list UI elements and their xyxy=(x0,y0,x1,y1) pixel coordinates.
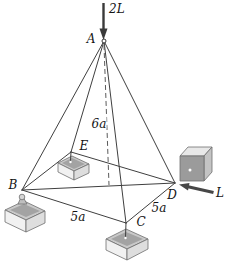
joint-a-label: A xyxy=(86,32,96,46)
anchor-block-d xyxy=(180,147,212,181)
member-bd-line xyxy=(22,183,175,190)
member-ad-line xyxy=(104,41,175,183)
truss-members xyxy=(22,41,175,223)
force-2l-arrow xyxy=(100,3,108,40)
anchor-block-d-front-face xyxy=(180,156,204,181)
truss-diagram-svg: A B C D E 2L L 6a 5a 5a xyxy=(0,0,226,265)
joint-c-label: C xyxy=(136,215,145,229)
anchor-block-d-dot xyxy=(189,169,192,172)
joint-e-label: E xyxy=(79,139,89,153)
footing-b-ball xyxy=(19,194,25,200)
force-l-arrow xyxy=(179,183,214,193)
force-2l-arrowhead xyxy=(100,29,108,41)
dim-5a-bc-label: 5a xyxy=(71,210,86,224)
dim-5a-cd-label: 5a xyxy=(152,201,167,215)
force-l-label: L xyxy=(215,186,224,200)
force-l-arrowhead xyxy=(179,183,190,191)
joint-e-connector-line xyxy=(71,152,72,161)
force-l-shaft xyxy=(187,187,214,193)
footing-b xyxy=(5,194,45,232)
dim-6a-label: 6a xyxy=(92,117,107,131)
joint-a-node xyxy=(102,39,106,43)
joint-c-connector-line xyxy=(126,223,127,237)
space-truss-figure: A B C D E 2L L 6a 5a 5a xyxy=(0,0,226,265)
joint-d-label: D xyxy=(166,188,177,202)
footing-e-anchor-dot xyxy=(69,161,71,163)
joint-b-label: B xyxy=(8,178,18,192)
altitude-dashed-line xyxy=(104,45,109,185)
force-2l-label: 2L xyxy=(108,2,125,16)
footing-c-anchor-dot xyxy=(124,237,126,239)
member-ac-line xyxy=(104,41,126,223)
member-ae-line xyxy=(71,41,104,152)
